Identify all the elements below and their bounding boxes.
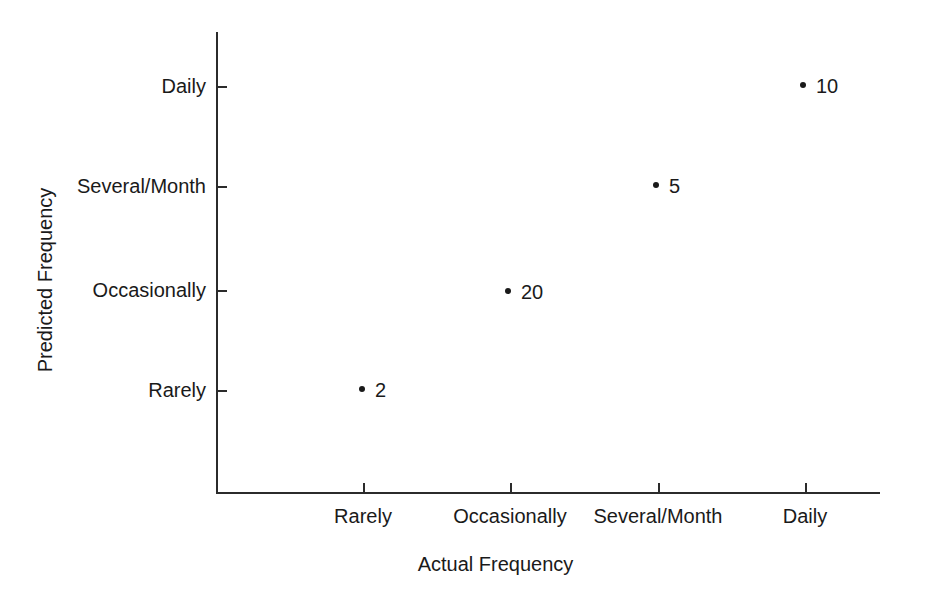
y-axis-title: Predicted Frequency [33, 130, 57, 430]
y-tick-mark-rarely [218, 390, 227, 392]
y-tick-mark-occasionally [218, 290, 227, 292]
data-point-marker[interactable] [800, 82, 806, 88]
x-tick-label-daily: Daily [783, 505, 827, 527]
data-point-marker[interactable] [505, 288, 511, 294]
data-point-label: 10 [816, 76, 838, 96]
scatter-plot-figure: Daily Several/Month Occasionally Rarely … [0, 0, 925, 598]
data-point-label: 20 [521, 282, 543, 302]
y-tick-label-daily: Daily [162, 76, 206, 96]
y-axis-line [216, 32, 218, 494]
x-tick-mark-several-month [658, 483, 660, 492]
y-tick-label-occasionally: Occasionally [93, 280, 206, 300]
x-tick-mark-daily [805, 483, 807, 492]
data-point-marker[interactable] [359, 386, 365, 392]
y-tick-label-several-month: Several/Month [77, 176, 206, 196]
data-point-marker[interactable] [653, 182, 659, 188]
y-tick-mark-daily [218, 86, 227, 88]
x-tick-label-several-month: Several/Month [594, 505, 723, 527]
x-tick-mark-occasionally [510, 483, 512, 492]
y-tick-mark-several-month [218, 186, 227, 188]
y-tick-label-rarely: Rarely [148, 380, 206, 400]
x-tick-label-occasionally: Occasionally [453, 505, 566, 527]
x-axis-title-text: Actual Frequency [418, 552, 574, 576]
x-tick-label-rarely: Rarely [334, 505, 392, 527]
x-axis-line [216, 492, 880, 494]
data-point-label: 5 [669, 176, 680, 196]
x-axis-title: Actual Frequency [0, 552, 925, 576]
x-tick-mark-rarely [363, 483, 365, 492]
data-point-label: 2 [375, 380, 386, 400]
